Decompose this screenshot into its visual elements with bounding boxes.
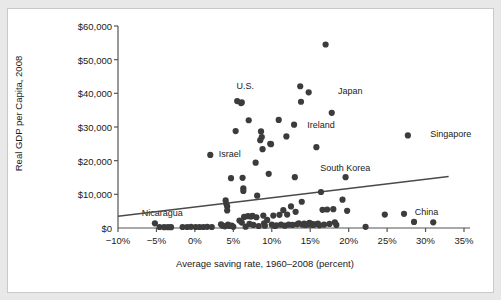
data-point: [293, 209, 299, 215]
data-point: [230, 224, 236, 230]
data-point: [291, 122, 297, 128]
data-point: [401, 211, 407, 217]
data-point: [362, 224, 368, 230]
data-point: [264, 217, 270, 223]
data-point: [228, 175, 234, 181]
data-point: [207, 152, 213, 158]
data-point: [250, 222, 256, 228]
data-point: [313, 144, 319, 150]
data-point: [254, 193, 260, 199]
axis-ticks: [114, 26, 464, 232]
data-point: [224, 207, 230, 213]
data-point: [323, 41, 329, 47]
data-point: [253, 214, 259, 220]
data-point: [259, 134, 265, 140]
data-point: [266, 171, 272, 177]
data-point: [333, 222, 339, 228]
data-point: [268, 141, 274, 147]
data-point: [411, 219, 417, 225]
data-points: [152, 41, 437, 230]
data-point: [284, 211, 290, 217]
data-point: [292, 174, 298, 180]
data-point: [339, 197, 345, 203]
data-point: [253, 160, 259, 166]
data-point: [239, 175, 245, 181]
data-point: [259, 146, 265, 152]
data-point: [299, 199, 305, 205]
data-point: [283, 133, 289, 139]
data-point: [233, 128, 239, 134]
data-point: [246, 117, 252, 123]
data-point: [168, 224, 174, 230]
data-point: [256, 223, 262, 229]
data-point: [288, 203, 294, 209]
data-point: [258, 128, 264, 134]
data-point: [321, 222, 327, 228]
data-point: [318, 189, 324, 195]
data-point: [329, 110, 335, 116]
data-point: [240, 188, 246, 194]
data-point: [330, 206, 336, 212]
data-point: [342, 174, 348, 180]
data-point: [270, 212, 276, 218]
data-point: [382, 211, 388, 217]
data-point: [326, 221, 332, 227]
data-point: [239, 99, 245, 105]
chart-canvas: [0, 0, 501, 300]
data-point: [344, 208, 350, 214]
scatter-chart: Real GDP per Capita, 2008 Average saving…: [0, 0, 501, 300]
data-point: [324, 206, 330, 212]
data-point: [276, 117, 282, 123]
data-point: [209, 224, 215, 230]
data-point: [298, 99, 304, 105]
data-point: [297, 83, 303, 89]
data-point: [430, 219, 436, 225]
data-point: [262, 223, 268, 229]
data-point: [405, 132, 411, 138]
data-point: [306, 89, 312, 95]
